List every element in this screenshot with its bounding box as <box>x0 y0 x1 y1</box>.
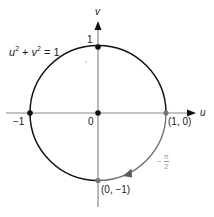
label-left-neg1: −1 <box>13 117 24 127</box>
point-origin <box>95 110 101 116</box>
u-axis-label: u <box>200 108 206 118</box>
v-axis-arrow-icon <box>95 21 102 30</box>
arc-direction-arrow-icon <box>123 169 132 178</box>
point-right <box>163 110 168 115</box>
angle-fraction: π 2 <box>164 153 169 170</box>
equation-rhs: = 1 <box>41 46 60 58</box>
equation-plus: + <box>19 46 32 58</box>
speck-mark <box>85 61 87 63</box>
angle-label-neg-pi-over-2: − π 2 <box>157 153 169 170</box>
unit-circle-diagram: v u u2 + v2 = 1 1 −1 0 (1, 0) (0, −1) − … <box>0 0 214 217</box>
point-bottom <box>95 178 100 183</box>
point-left <box>27 110 33 116</box>
circle-equation: u2 + v2 = 1 <box>9 45 60 58</box>
fraction-bar <box>164 161 169 162</box>
highlighted-quarter-arc <box>98 113 166 181</box>
label-top-1: 1 <box>87 35 93 45</box>
label-point-0-neg1: (0, −1) <box>101 185 130 195</box>
angle-sign: − <box>157 157 162 166</box>
angle-denominator: 2 <box>164 163 168 170</box>
point-top <box>95 44 101 50</box>
label-origin-0: 0 <box>88 117 94 127</box>
angle-numerator: π <box>164 153 169 160</box>
v-axis-label: v <box>95 7 100 17</box>
label-point-1-0: (1, 0) <box>168 117 191 127</box>
